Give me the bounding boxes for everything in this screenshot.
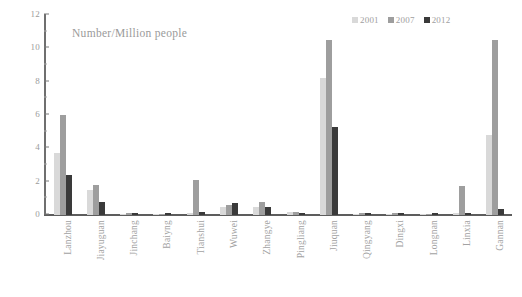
x-axis-label-baiyng: Baiyng xyxy=(162,220,172,249)
x-label-cell: Baiyng xyxy=(146,218,179,296)
bar-group-jiayuguan xyxy=(79,14,112,215)
bar-group-tianshui xyxy=(179,14,212,215)
bar-group-gannan xyxy=(479,14,512,215)
bar-gannan-2012[interactable] xyxy=(498,209,504,215)
bar-linxia-2012[interactable] xyxy=(465,213,471,216)
x-label-cell: Jiuquan xyxy=(312,218,345,296)
x-axis-label-lanzhou: Lanzhou xyxy=(63,220,73,255)
bar-dingxi-2012[interactable] xyxy=(398,213,404,215)
bar-wuwei-2012[interactable] xyxy=(232,203,238,215)
x-axis-label-jinchang: Jinchang xyxy=(129,220,139,255)
y-tick-label: 2 xyxy=(35,176,40,186)
bar-group-pingliang xyxy=(279,14,312,215)
bar-chart: 024681012 Number/Million people 20012007… xyxy=(0,0,522,297)
x-axis-label-pingliang: Pingliang xyxy=(296,220,306,258)
x-axis-label-tianshui: Tianshui xyxy=(196,220,206,255)
bar-group-lanzhou xyxy=(46,14,79,215)
x-axis-label-jiayuguan: Jiayuguan xyxy=(96,220,106,260)
bar-group-zhangye xyxy=(246,14,279,215)
x-axis-label-jiuquan: Jiuquan xyxy=(329,220,339,251)
bar-lanzhou-2012[interactable] xyxy=(66,175,72,215)
bar-pingliang-2012[interactable] xyxy=(299,213,305,215)
bar-longnan-2012[interactable] xyxy=(432,213,438,216)
bar-group-longnan xyxy=(412,14,445,215)
x-axis-label-dingxi: Dingxi xyxy=(395,220,405,248)
bar-group-jinchang xyxy=(113,14,146,215)
x-label-cell: Wuwei xyxy=(212,218,245,296)
bar-qingyang-2012[interactable] xyxy=(365,213,371,216)
bar-tianshui-2012[interactable] xyxy=(199,212,205,215)
x-axis-label-zhangye: Zhangye xyxy=(262,220,272,255)
x-label-cell: Jinchang xyxy=(113,218,146,296)
y-tick-label: 0 xyxy=(35,209,40,219)
bar-jiayuguan-2012[interactable] xyxy=(99,202,105,215)
x-label-cell: Qingyang xyxy=(346,218,379,296)
bar-zhangye-2012[interactable] xyxy=(265,207,271,215)
bar-groups xyxy=(46,14,512,215)
x-label-cell: Lanzhou xyxy=(46,218,79,296)
x-label-cell: Dingxi xyxy=(379,218,412,296)
x-axis-label-wuwei: Wuwei xyxy=(229,220,239,248)
bar-linxia-2007[interactable] xyxy=(459,186,465,215)
bar-tianshui-2007[interactable] xyxy=(193,180,199,215)
x-label-cell: Zhangye xyxy=(246,218,279,296)
x-label-cell: Tianshui xyxy=(179,218,212,296)
bar-gannan-2007[interactable] xyxy=(492,40,498,215)
y-tick-label: 10 xyxy=(31,42,40,52)
x-axis-label-gannan: Gannan xyxy=(495,220,505,251)
x-label-cell: Pingliang xyxy=(279,218,312,296)
x-axis-label-qingyang: Qingyang xyxy=(362,220,372,259)
y-tick-label: 12 xyxy=(31,9,40,19)
bar-jinchang-2012[interactable] xyxy=(132,213,138,216)
x-axis-label-linxia: Linxia xyxy=(462,220,472,246)
y-tick-label: 4 xyxy=(35,142,40,152)
bar-group-dingxi xyxy=(379,14,412,215)
x-axis-label-longnan: Longnan xyxy=(429,220,439,255)
x-label-cell: Jiayuguan xyxy=(79,218,112,296)
x-label-cell: Linxia xyxy=(445,218,478,296)
bar-group-baiyng xyxy=(146,14,179,215)
bar-group-linxia xyxy=(445,14,478,215)
y-tick-label: 8 xyxy=(35,76,40,86)
bar-baiyng-2012[interactable] xyxy=(165,213,171,216)
x-label-cell: Longnan xyxy=(412,218,445,296)
bar-group-qingyang xyxy=(346,14,379,215)
bar-group-jiuquan xyxy=(312,14,345,215)
x-label-cell: Gannan xyxy=(479,218,512,296)
y-tick-label: 6 xyxy=(35,109,40,119)
x-axis-labels: LanzhouJiayuguanJinchangBaiyngTianshuiWu… xyxy=(46,218,512,296)
bar-group-wuwei xyxy=(212,14,245,215)
bar-jiuquan-2012[interactable] xyxy=(332,127,338,215)
